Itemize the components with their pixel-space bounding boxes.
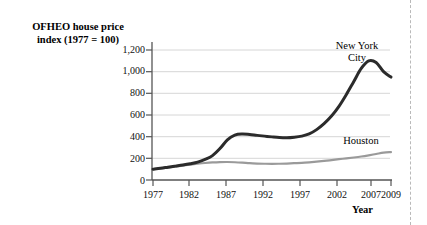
gridlines: [152, 50, 390, 158]
x-axis-ticks: [153, 180, 391, 186]
chart-figure: OFHEO house price index (1977 = 100) 1,2…: [0, 0, 427, 225]
axis-lines: [152, 42, 392, 180]
y-axis-ticks: [146, 50, 152, 180]
series-line-houston: [153, 152, 391, 169]
plot-area: [0, 0, 427, 225]
